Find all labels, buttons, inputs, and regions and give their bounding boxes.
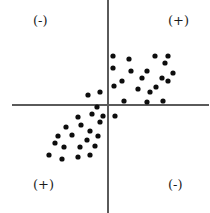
data-point [89, 111, 94, 116]
quadrant-label-lower-right: (-) [168, 178, 183, 191]
data-point [69, 132, 74, 137]
data-point [159, 75, 164, 80]
data-point [92, 143, 97, 148]
data-point [77, 144, 82, 149]
quadrant-label-upper-left: (-) [33, 14, 48, 27]
data-point [165, 78, 170, 83]
data-point [144, 68, 149, 73]
data-point [63, 124, 68, 129]
quadrant-label-lower-left: (+) [33, 178, 54, 191]
data-point [160, 98, 165, 103]
data-point [165, 53, 170, 58]
data-point [144, 99, 149, 104]
data-point [153, 84, 158, 89]
data-point [135, 86, 140, 91]
data-points-group [46, 53, 175, 161]
data-point [61, 144, 66, 149]
data-point [87, 152, 92, 157]
data-point [152, 53, 157, 58]
quadrant-label-upper-right: (+) [168, 14, 189, 27]
data-point [55, 133, 60, 138]
data-point [85, 92, 90, 97]
scatter-plot-figure: (-) (+) (+) (-) [0, 0, 210, 213]
data-point [95, 133, 100, 138]
data-point [170, 70, 175, 75]
data-point [94, 104, 99, 109]
data-point [110, 53, 115, 58]
data-point [75, 114, 80, 119]
data-point [110, 65, 115, 70]
data-point [128, 68, 133, 73]
data-point [75, 154, 80, 159]
data-point [126, 56, 131, 61]
data-point [52, 140, 57, 145]
data-point [87, 128, 92, 133]
data-point [112, 113, 117, 118]
data-point [97, 89, 102, 94]
data-point [78, 122, 83, 127]
data-point [84, 137, 89, 142]
data-point [111, 83, 116, 88]
data-point [162, 60, 167, 65]
data-point [100, 113, 105, 118]
data-point [139, 75, 144, 80]
data-point [119, 78, 124, 83]
data-point [46, 152, 51, 157]
data-point [59, 156, 64, 161]
data-point [147, 89, 152, 94]
data-point [121, 98, 126, 103]
data-point [97, 119, 102, 124]
